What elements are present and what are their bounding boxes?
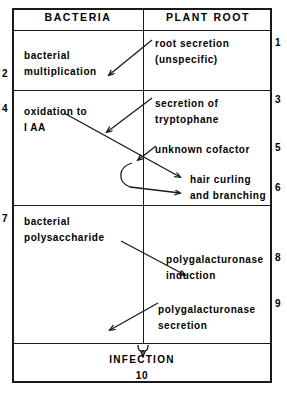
step-number-8: 8 [275, 253, 281, 263]
label-bacterial-polysaccharide: bacterial polysaccharide [24, 214, 105, 246]
label-polygalacturonase-induction: polygalacturonase induction [166, 252, 264, 284]
label-oxidation-to-iaa: oxidation to I AA [24, 104, 87, 136]
step-number-6: 6 [275, 183, 281, 193]
label-infection: INFECTION [13, 352, 271, 368]
step-number-7: 7 [2, 214, 8, 224]
arrow-root-secretion-to-multiplication [109, 40, 152, 75]
figure-diagram: BACTERIA PLANT ROOT bacterial multiplica… [0, 0, 287, 393]
label-root-secretion: root secretion (unspecific) [155, 36, 229, 68]
step-number-4: 4 [2, 104, 8, 114]
step-number-1: 1 [275, 38, 281, 48]
step-number-9: 9 [275, 299, 281, 309]
step-number-2: 2 [2, 69, 8, 79]
arrow-secretion-to-bacteria [110, 303, 158, 330]
step-number-5: 5 [275, 143, 281, 153]
label-infection-number: 10 [13, 368, 271, 384]
label-bacterial-multiplication: bacterial multiplication [24, 48, 97, 80]
step-number-3: 3 [275, 95, 281, 105]
arrow-hook-to-branching [121, 163, 180, 193]
arrow-tryptophane-to-oxidation [107, 98, 152, 132]
label-secretion-of-tryptophane: secretion of tryptophane [155, 96, 219, 128]
label-hair-curling-and-branching: hair curling and branching [190, 172, 266, 204]
arrow-unknown-cofactor [138, 146, 156, 160]
label-polygalacturonase-secretion: polygalacturonase secretion [158, 302, 256, 334]
label-unknown-cofactor: unknown cofactor [155, 142, 250, 158]
